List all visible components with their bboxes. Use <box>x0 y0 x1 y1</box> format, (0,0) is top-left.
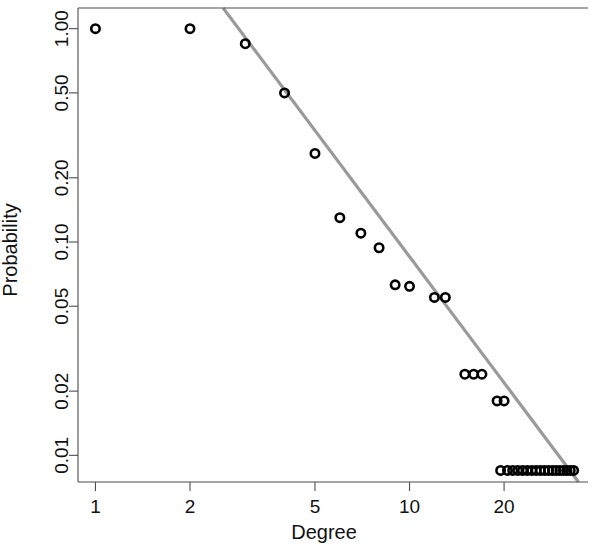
y-tick-label: 0.01 <box>52 437 73 474</box>
data-point <box>391 281 399 289</box>
x-tick-label: 2 <box>185 496 196 517</box>
data-point <box>500 397 508 405</box>
y-tick-label: 0.10 <box>52 224 73 261</box>
x-tick-label: 20 <box>494 496 515 517</box>
y-tick-label: 0.50 <box>52 74 73 111</box>
data-point <box>311 149 319 157</box>
data-point <box>441 293 449 301</box>
data-point <box>336 214 344 222</box>
x-tick-label: 5 <box>310 496 321 517</box>
plot-frame <box>78 8 588 482</box>
data-point <box>405 282 413 290</box>
x-axis-ticks: 1251020 <box>90 482 514 517</box>
y-tick-label: 0.20 <box>52 159 73 196</box>
data-point <box>91 24 99 32</box>
y-tick-label: 0.05 <box>52 288 73 325</box>
chart-canvas: 1251020 0.010.020.050.100.200.501.00 Deg… <box>0 0 595 546</box>
data-point <box>186 24 194 32</box>
data-point <box>430 293 438 301</box>
y-tick-label: 0.02 <box>52 373 73 410</box>
data-point <box>357 229 365 237</box>
degree-distribution-plot: 1251020 0.010.020.050.100.200.501.00 Deg… <box>0 0 595 546</box>
data-point <box>241 40 249 48</box>
y-axis-title: Probability <box>0 203 21 296</box>
y-axis-ticks: 0.010.020.050.100.200.501.00 <box>52 10 79 474</box>
x-tick-label: 1 <box>90 496 101 517</box>
power-law-fit-line <box>223 8 578 482</box>
data-point <box>461 370 469 378</box>
data-point <box>375 244 383 252</box>
data-point <box>478 370 486 378</box>
data-point <box>280 89 288 97</box>
y-tick-label: 1.00 <box>52 10 73 47</box>
data-points-group <box>91 24 578 474</box>
x-tick-label: 10 <box>399 496 420 517</box>
x-axis-title: Degree <box>291 521 357 543</box>
